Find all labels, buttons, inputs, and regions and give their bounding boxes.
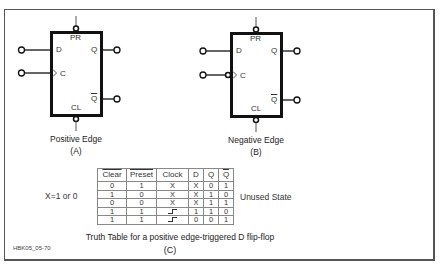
ff-b-caption: Negative Edge (216, 135, 296, 145)
cell: 1 (219, 199, 234, 208)
truth-table-label: (C) (150, 245, 190, 255)
cell: 0 (98, 199, 127, 208)
col-clock: Clock (157, 169, 189, 182)
cell: 0 (189, 216, 204, 225)
ff-a-pin-cl: CL (71, 103, 81, 112)
rising-edge-icon (157, 207, 189, 216)
ff-b-pin-q: Q (271, 46, 277, 55)
col-qbar: Q (219, 169, 234, 182)
table-row: 0 1 X X 0 1 (98, 182, 234, 191)
cell: X (157, 199, 189, 208)
table-row: 0 0 X X 1 1 (98, 199, 234, 208)
cell: X (189, 182, 204, 191)
col-q: Q (204, 169, 219, 182)
table-row: 1 1 0 0 1 (98, 216, 234, 225)
cell: X (189, 199, 204, 208)
cell: 0 (204, 182, 219, 191)
ff-b-pin-pr: PR (250, 34, 261, 43)
ff-a-caption: Positive Edge (36, 134, 116, 144)
cell: X (157, 182, 189, 191)
ff-a-label: (A) (36, 146, 116, 156)
ff-b-pin-d: D (236, 46, 242, 55)
table-row: 1 1 1 1 0 (98, 207, 234, 216)
figure-id: HBK05_05-70 (13, 245, 51, 251)
ff-b-pin-qbar: Q (271, 95, 277, 104)
ff-a-pin-d: D (56, 45, 62, 54)
table-row: 1 0 X X 1 0 (98, 190, 234, 199)
col-preset: Preset (127, 169, 157, 182)
col-d: D (189, 169, 204, 182)
ff-a-pin-q: Q (91, 45, 97, 54)
truth-table: Clear Preset Clock D Q Q 0 1 X X 0 1 1 0… (97, 168, 234, 225)
cell: 1 (127, 182, 157, 191)
x-note: X=1 or 0 (45, 191, 77, 201)
ff-a-pin-pr: PR (70, 33, 81, 42)
truth-table-caption: Truth Table for a positive edge-triggere… (60, 232, 300, 242)
cell: 1 (219, 182, 234, 191)
col-clear: Clear (98, 169, 127, 182)
cell: 0 (204, 216, 219, 225)
cell: 1 (204, 199, 219, 208)
rising-edge-icon (157, 216, 189, 225)
cell: 1 (219, 216, 234, 225)
cell: 0 (98, 182, 127, 191)
cell: 0 (127, 199, 157, 208)
ff-a-pin-qbar: Q (91, 94, 97, 103)
ff-a-pin-c: C (60, 69, 66, 78)
ff-b-pin-cl: CL (251, 104, 261, 113)
cell: 1 (127, 216, 157, 225)
ff-b-pin-c: C (240, 71, 246, 80)
truth-table-header: Clear Preset Clock D Q Q (98, 169, 234, 182)
cell: 1 (98, 216, 127, 225)
ff-b-label: (B) (216, 147, 296, 157)
unused-state-note: Unused State (240, 192, 292, 202)
